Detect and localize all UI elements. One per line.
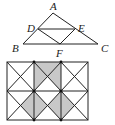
shaded-r1c0-right — [21, 91, 35, 120]
shaded-r1c2-left — [61, 91, 75, 120]
vertex-dot — [59, 89, 62, 92]
vertex-dot — [60, 119, 63, 122]
label-d: D — [26, 22, 35, 34]
label-f: F — [55, 47, 63, 59]
vertex-dot — [32, 89, 35, 92]
vertex-dot — [33, 61, 36, 64]
vertex-dot — [60, 61, 63, 64]
segment-ef — [60, 29, 75, 44]
shaded-r1c1-left — [34, 91, 48, 120]
label-c: C — [101, 42, 109, 54]
segment-df — [38, 29, 60, 44]
label-b: B — [12, 42, 19, 54]
label-a: A — [49, 0, 57, 12]
shaded-r1c1-right — [48, 91, 62, 120]
label-e: E — [77, 22, 85, 34]
geometry-figure: A D E B F C — [0, 0, 115, 125]
vertex-dot — [33, 119, 36, 122]
